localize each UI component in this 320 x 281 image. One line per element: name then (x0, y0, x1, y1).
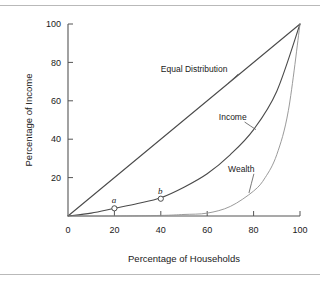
x-tick-label-0: 0 (65, 225, 70, 235)
curve-label-wealth: Wealth (228, 164, 255, 174)
point-label-b: b (158, 186, 163, 196)
y-tick-label-40: 40 (51, 134, 61, 144)
x-tick-label-100: 100 (292, 225, 307, 235)
leader-line-income (245, 122, 256, 130)
x-axis-tick-labels: 020406080100 (65, 225, 307, 235)
leader-line-equal-distribution (228, 74, 238, 84)
x-tick-label-20: 20 (109, 225, 119, 235)
curve-label-equal-distribution: Equal Distribution (161, 64, 228, 74)
point-marker-a (112, 206, 117, 211)
y-tick-label-60: 60 (51, 96, 61, 106)
lorenz-curve-figure: 20406080100 020406080100 Equal Distribut… (0, 0, 320, 281)
y-tick-label-100: 100 (46, 19, 61, 29)
y-axis-title: Percentage of Income (23, 74, 34, 167)
annotation-layer: Equal DistributionIncomeWealth (161, 64, 256, 193)
y-axis-ticks (68, 24, 73, 178)
curve-label-income: Income (219, 112, 247, 122)
y-tick-label-80: 80 (51, 58, 61, 68)
y-axis-tick-labels: 20406080100 (46, 19, 61, 183)
x-tick-label-40: 40 (156, 225, 166, 235)
x-tick-label-60: 60 (202, 225, 212, 235)
point-marker-b (158, 196, 163, 201)
series-layer (68, 24, 300, 216)
point-label-a: a (112, 195, 117, 205)
leader-line-wealth (249, 174, 254, 193)
x-tick-label-80: 80 (249, 225, 259, 235)
x-axis-title: Percentage of Households (128, 253, 240, 264)
lorenz-chart-svg: 20406080100 020406080100 Equal Distribut… (0, 0, 320, 281)
y-tick-label-20: 20 (51, 173, 61, 183)
